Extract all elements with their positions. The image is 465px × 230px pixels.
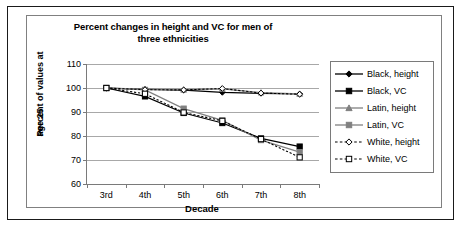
x-axis-title: Decade — [86, 203, 318, 214]
plot-area: 60708090100110 3rd4th5th6th7th8th — [86, 64, 319, 185]
legend-item-6[interactable]: White, VC — [331, 150, 433, 167]
chart-legend: Black, heightBlack, VCLatin, heightLatin… — [330, 61, 434, 173]
y-axis-title-line-2: age 25 — [35, 103, 46, 143]
x-axis-tick — [280, 184, 281, 188]
legend-label: Black, height — [364, 69, 419, 79]
y-axis-tick-label: 90 — [71, 107, 81, 117]
y-axis-tick-label: 80 — [71, 131, 81, 141]
x-axis-tick-label: 6th — [216, 190, 229, 200]
y-axis-tick-label: 60 — [71, 179, 81, 189]
legend-label: White, height — [364, 137, 420, 147]
legend-item-5[interactable]: White, height — [331, 133, 433, 150]
x-axis-tick — [126, 184, 127, 188]
series-black-height — [103, 85, 302, 97]
y-axis-tick-label: 70 — [71, 155, 81, 165]
x-axis-tick — [87, 184, 88, 188]
x-axis-tick-label: 7th — [255, 190, 268, 200]
chart-title-line-1: Percent changes in height and VC for men… — [42, 21, 304, 33]
data-series-layer — [87, 64, 319, 184]
legend-label: Latin, height — [364, 103, 416, 113]
legend-swatch — [334, 153, 364, 165]
legend-swatch — [334, 85, 364, 97]
y-axis-tick-label: 110 — [67, 59, 81, 69]
x-axis-tick — [242, 184, 243, 188]
legend-label: Latin, VC — [364, 120, 404, 130]
legend-item-4[interactable]: Latin, VC — [331, 116, 433, 133]
x-axis-tick — [203, 184, 204, 188]
legend-item-1[interactable]: Black, height — [331, 65, 433, 82]
x-axis-tick-label: 3rd — [100, 190, 113, 200]
legend-swatch — [334, 102, 364, 114]
x-axis-tick — [164, 184, 165, 188]
figure-frame: Percent changes in height and VC for men… — [7, 6, 454, 220]
x-axis-tick-label: 8th — [293, 190, 306, 200]
y-axis-tick-label: 100 — [66, 83, 81, 93]
x-axis-tick-label: 4th — [139, 190, 152, 200]
legend-swatch — [334, 119, 364, 131]
x-axis-tick-label: 5th — [177, 190, 190, 200]
chart-title-line-2: three ethnicities — [42, 33, 304, 45]
legend-swatch — [334, 68, 364, 80]
series-white-vc — [104, 85, 303, 160]
chart-title: Percent changes in height and VC for men… — [42, 21, 304, 45]
series-black-vc — [104, 85, 303, 149]
legend-label: Black, VC — [364, 86, 407, 96]
x-axis-tick — [319, 184, 320, 188]
legend-item-3[interactable]: Latin, height — [331, 99, 433, 116]
legend-label: White, VC — [364, 154, 408, 164]
legend-swatch — [334, 136, 364, 148]
legend-item-2[interactable]: Black, VC — [331, 82, 433, 99]
